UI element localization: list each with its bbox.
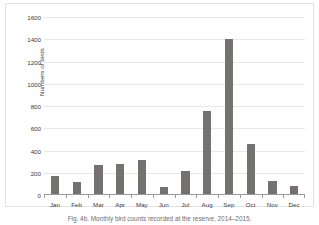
chart-frame: Numbers of birds 02004006008001000120014… (5, 3, 314, 207)
x-axis-tick-mark (218, 195, 240, 198)
figure-container: Numbers of birds 02004006008001000120014… (0, 0, 319, 225)
bar-mar[interactable] (94, 165, 102, 194)
bar-slot (153, 17, 175, 194)
x-axis-tick-mark (283, 195, 305, 198)
x-axis-tick-mark (262, 195, 284, 198)
x-axis-label-dec: Dec (283, 200, 305, 210)
bar-jul[interactable] (181, 171, 189, 194)
bar-nov[interactable] (268, 181, 276, 194)
y-axis-tick-label: 1600 (27, 14, 41, 21)
x-axis-label-jul: Jul (175, 200, 197, 210)
bar-aug[interactable] (203, 111, 211, 194)
bar-slot (131, 17, 153, 194)
y-axis-tick-label: 0 (38, 192, 41, 199)
y-axis-tick-label: 400 (31, 147, 41, 154)
x-axis-tick-mark (66, 195, 88, 198)
x-axis-tick-labels: JanFebMarAprMayJunJulAugSepOctNovDec (44, 200, 305, 210)
bar-slot (109, 17, 131, 194)
x-axis-tick-mark (175, 195, 197, 198)
x-axis-tick-mark (109, 195, 131, 198)
x-axis-label-sep: Sep (218, 200, 240, 210)
bar-feb[interactable] (73, 182, 81, 194)
y-axis-tick-label: 600 (31, 125, 41, 132)
bar-apr[interactable] (116, 164, 124, 194)
x-axis-label-mar: Mar (88, 200, 110, 210)
x-axis-label-apr: Apr (109, 200, 131, 210)
bar-slot (283, 17, 305, 194)
x-axis-tick-mark (153, 195, 175, 198)
bar-dec[interactable] (290, 186, 298, 194)
bar-slot (88, 17, 110, 194)
y-axis-tick-label: 800 (31, 103, 41, 110)
bar-jan[interactable] (51, 176, 59, 194)
x-axis-label-jan: Jan (44, 200, 66, 210)
bar-slot (196, 17, 218, 194)
y-axis-tick-label: 1200 (27, 58, 41, 65)
bar-slot (218, 17, 240, 194)
bar-oct[interactable] (247, 144, 255, 194)
bar-jun[interactable] (160, 187, 168, 194)
y-axis-tick-label: 200 (31, 169, 41, 176)
x-axis-label-feb: Feb (66, 200, 88, 210)
bar-slot (175, 17, 197, 194)
bar-slot (66, 17, 88, 194)
x-axis-tick-mark (196, 195, 218, 198)
bar-sep[interactable] (225, 39, 233, 194)
y-axis-tick-label: 1000 (27, 80, 41, 87)
x-axis-tick-mark (131, 195, 153, 198)
y-axis-tick-label: 1400 (27, 36, 41, 43)
x-axis-label-oct: Oct (240, 200, 262, 210)
x-axis-tick-mark (88, 195, 110, 198)
bar-slot (240, 17, 262, 194)
x-axis-label-jun: Jun (153, 200, 175, 210)
x-axis-label-may: May (131, 200, 153, 210)
plot-inner: 02004006008001000120014001600 (44, 17, 305, 195)
x-axis-tick-mark (44, 195, 66, 198)
plot-area: 02004006008001000120014001600 (44, 17, 305, 195)
x-axis-label-nov: Nov (262, 200, 284, 210)
x-axis-label-aug: Aug (196, 200, 218, 210)
bar-series (44, 17, 305, 194)
figure-caption: Fig. 4b. Monthly bird counts recorded at… (10, 214, 309, 223)
bar-may[interactable] (138, 160, 146, 194)
x-axis-tick-mark (240, 195, 262, 198)
bar-slot (262, 17, 284, 194)
x-axis-tick-marks (44, 195, 305, 198)
bar-slot (44, 17, 66, 194)
